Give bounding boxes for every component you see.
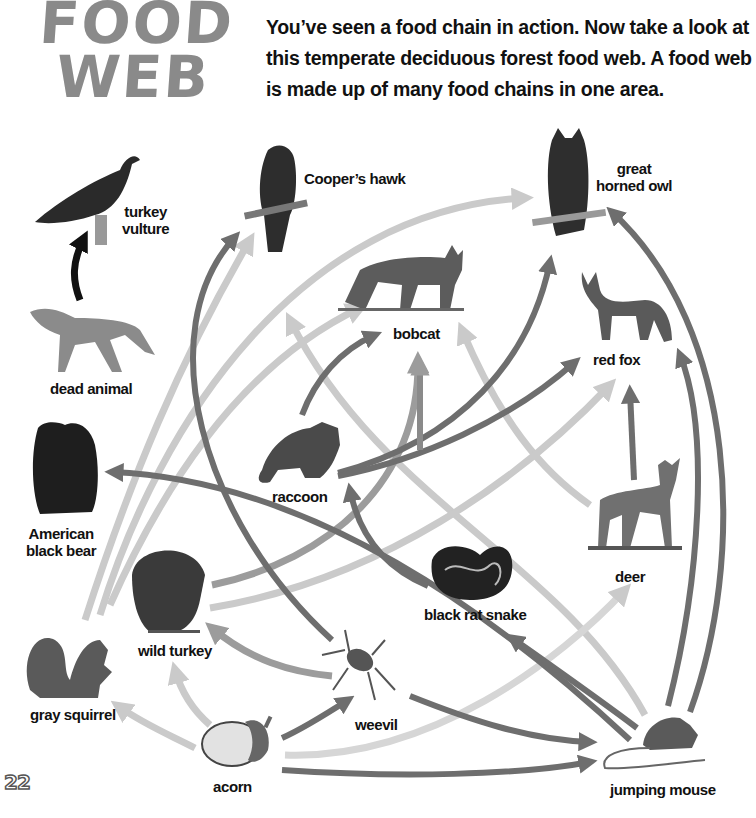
jumping-mouse-illustration [604,717,705,768]
arrow-acorn-to-squirrel [118,706,195,748]
arrow-acorn-to-turkey [175,670,210,725]
page-number: 22 [4,770,30,794]
label-great-horned-owl: great horned owl [596,160,672,194]
wild-turkey-illustration [132,551,205,633]
black-bear-illustration [33,422,98,514]
label-red-fox: red fox [593,351,640,368]
label-gray-squirrel: gray squirrel [30,706,116,723]
arrow-raccoon-to-bobcat [302,335,375,415]
label-turkey-vulture: turkey vulture [122,203,169,237]
weevil-illustration [322,630,395,700]
arrow-acorn-to-mouse [282,762,590,774]
label-acorn: acorn [213,778,252,795]
label-raccoon: raccoon [272,488,328,505]
raccoon-illustration [259,422,340,483]
label-coopers-hawk: Cooper’s hawk [304,170,406,187]
arrow-weevil-to-turkey [212,628,332,676]
label-weevil: weevil [355,716,398,733]
arrow-mouse-to-hawk [290,320,645,715]
label-dead-animal: dead animal [50,380,132,397]
label-wild-turkey: wild turkey [138,642,212,659]
black-rat-snake-illustration [431,546,512,600]
label-bobcat: bobcat [393,325,440,342]
label-american-black-bear: American black bear [26,525,96,559]
dead-animal-illustration [30,309,155,372]
label-black-rat-snake: black rat snake [424,606,526,623]
arrow-acorn-to-weevil [282,700,348,738]
arrow-mouse-to-snake [512,638,637,728]
coopers-hawk-illustration [244,145,308,252]
red-fox-illustration [582,272,672,342]
gray-squirrel-illustration [27,638,112,698]
arrow-mouse-to-fox [668,355,698,706]
arrow-weevil-to-mouse [410,696,590,742]
arrow-deer-to-fox [630,392,634,480]
arrow-deer-to-bobcat [462,330,590,505]
arrow-dead-animal-to-vulture [74,238,84,300]
acorn-illustration [202,716,272,766]
label-deer: deer [615,568,645,585]
label-jumping-mouse: jumping mouse [610,781,716,798]
bobcat-illustration [338,245,464,311]
